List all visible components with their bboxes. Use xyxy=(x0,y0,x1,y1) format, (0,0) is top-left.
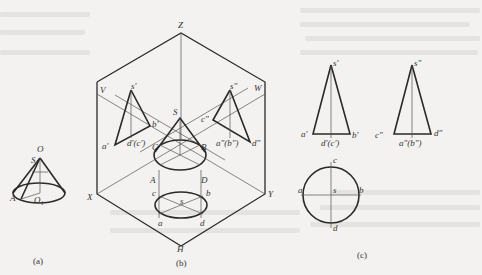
label-c-a-b-double-prime: a"(b") xyxy=(399,138,422,148)
label-C-cone: C xyxy=(152,142,159,152)
panel-c-three-views: s' a' b' d'(c') s" c" d" a"(b") c a b s … xyxy=(298,58,443,260)
label-S-cone: S xyxy=(173,107,178,117)
label-c-d-double-prime: d" xyxy=(434,128,443,138)
label-W: W xyxy=(254,83,263,93)
label-Z: Z xyxy=(178,20,184,30)
label-c-c-top: c xyxy=(333,155,337,165)
label-c-d-c-prime: d'(c') xyxy=(321,138,339,148)
label-b-prime: b' xyxy=(152,119,160,129)
label-c-a-prime: a' xyxy=(301,129,309,139)
caption-b: (b) xyxy=(176,258,187,268)
label-H: H xyxy=(176,244,184,254)
label-c-a-top: a xyxy=(298,185,303,195)
label-V: V xyxy=(100,85,107,95)
label-A: A xyxy=(9,193,16,203)
label-c-c-double-prime: c" xyxy=(375,130,383,140)
label-a-prime: a' xyxy=(102,141,110,151)
label-b-top: b xyxy=(206,188,211,198)
label-c-b-top: b xyxy=(359,185,364,195)
label-c-double-prime: c" xyxy=(201,114,209,124)
label-d-top: d xyxy=(200,218,205,228)
label-c-b-prime: b' xyxy=(352,130,360,140)
label-X: X xyxy=(86,192,93,202)
label-O1: O₁ xyxy=(34,195,44,205)
label-c-s-top: s xyxy=(333,185,337,195)
panel-b-projection-system: Z V W X Y H s' a' b' d'(c') s" c" d" a"(… xyxy=(86,20,274,268)
label-s-prime: s' xyxy=(131,81,138,91)
label-c-d-top: d xyxy=(333,223,338,233)
label-d-prime-c-prime: d'(c') xyxy=(127,138,145,148)
label-s-top: s xyxy=(180,196,184,206)
label-a-b-double-prime: a"(b") xyxy=(216,138,239,148)
label-A-cone: A xyxy=(149,175,156,185)
caption-c: (c) xyxy=(357,250,367,260)
label-s-double-prime: s" xyxy=(230,81,238,91)
label-Y: Y xyxy=(268,189,274,199)
label-a-top: a xyxy=(158,218,163,228)
label-O: O xyxy=(37,144,44,154)
caption-a: (a) xyxy=(33,256,43,266)
panel-a-pictorial-cone: O S A O₁ (a) xyxy=(9,144,65,266)
label-B-cone: B xyxy=(201,142,207,152)
label-c-top: c xyxy=(152,188,156,198)
label-d-double-prime: d" xyxy=(252,138,261,148)
cone-projection-figure: O S A O₁ (a) Z V W X Y H s' a' b' d'(c') xyxy=(0,0,482,275)
label-c-s-prime: s' xyxy=(333,58,340,68)
label-c-s-double-prime: s" xyxy=(414,58,422,68)
